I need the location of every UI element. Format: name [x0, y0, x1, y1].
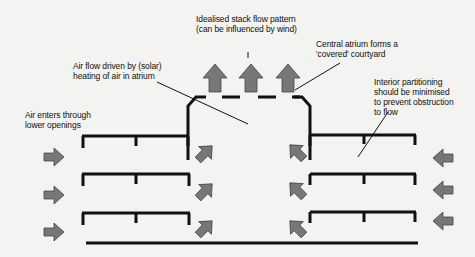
left-inlet-arrows [44, 148, 64, 241]
leader-lines [157, 52, 388, 157]
left-floors [82, 136, 190, 225]
label-air-enters: Air enters through lower openings [25, 110, 91, 130]
right-inlet-arrows [433, 149, 453, 230]
arrow-left-icon [433, 181, 453, 199]
arrow-right-icon [44, 223, 64, 241]
arrow-right-icon [44, 186, 64, 204]
arrow-up-right-icon [192, 139, 219, 166]
arrow-up-icon [276, 64, 300, 92]
label-partitioning: Interior partitioning should be minimise… [374, 77, 454, 117]
arrow-left-icon [433, 149, 453, 167]
arrow-up-left-icon [283, 214, 310, 241]
arrow-up-left-icon [283, 176, 310, 203]
left-atrium-arrows [192, 139, 219, 241]
label-atrium: Central atrium forms a 'covered' courtya… [316, 39, 398, 59]
arrow-up-left-icon [283, 138, 310, 165]
arrow-up-icon [203, 64, 227, 92]
arrow-up-icon [239, 64, 263, 92]
right-atrium-arrows [283, 138, 310, 241]
arrow-up-right-icon [192, 177, 219, 204]
label-air-flow: Air flow driven by (solar) heating of ai… [73, 61, 162, 81]
right-floors [310, 135, 416, 223]
label-stack-flow: Idealised stack flow pattern (can be inf… [196, 14, 297, 34]
arrow-right-icon [44, 148, 64, 166]
arrow-up-right-icon [192, 214, 219, 241]
arrow-left-icon [433, 212, 453, 230]
exhaust-arrows [203, 64, 300, 92]
